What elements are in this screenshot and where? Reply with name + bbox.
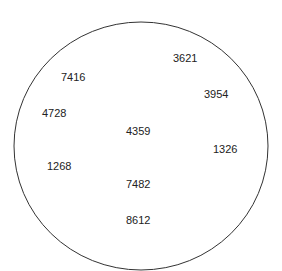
number-label: 1268 (47, 161, 71, 172)
number-label: 4728 (42, 108, 66, 119)
number-label: 3621 (173, 53, 197, 64)
number-label: 8612 (126, 215, 150, 226)
number-label: 1326 (213, 144, 237, 155)
number-label: 4359 (126, 126, 150, 137)
number-label: 3954 (204, 89, 228, 100)
number-label: 7416 (61, 72, 85, 83)
number-label: 7482 (126, 179, 150, 190)
